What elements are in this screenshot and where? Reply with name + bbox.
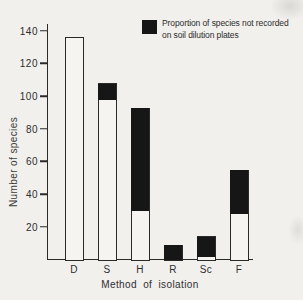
y-tick-label-80: 80 xyxy=(8,123,38,134)
legend-label-line2: on soil dilution plates xyxy=(162,30,303,42)
bar-R-black-segment xyxy=(164,245,182,260)
y-tick-label-20: 20 xyxy=(8,221,38,232)
legend-black-swatch xyxy=(142,20,157,34)
y-tick-mark-100 xyxy=(40,95,47,97)
y-tick-label-140: 140 xyxy=(8,25,38,36)
y-tick-label-40: 40 xyxy=(8,189,38,200)
x-axis-title: Method of isolation xyxy=(101,279,199,290)
y-tick-label-100: 100 xyxy=(8,91,38,102)
legend-label: Proportion of species not recorded on so… xyxy=(162,18,303,41)
bar-H xyxy=(131,108,150,261)
scan-smudge-right xyxy=(288,215,303,245)
legend-label-line1: Proportion of species not recorded xyxy=(162,18,303,30)
y-tick-mark-80 xyxy=(40,128,47,130)
bar-H-black-segment xyxy=(131,108,149,211)
scan-smudge-top-right xyxy=(270,0,303,20)
y-tick-mark-40 xyxy=(40,193,47,195)
bar-F xyxy=(230,170,249,261)
bar-S xyxy=(98,83,117,261)
x-category-label-S: S xyxy=(95,264,119,275)
y-tick-mark-20 xyxy=(40,226,47,228)
x-category-label-D: D xyxy=(62,264,86,275)
y-tick-label-60: 60 xyxy=(8,156,38,167)
bar-D xyxy=(65,37,84,260)
bar-Sc xyxy=(197,236,216,260)
y-tick-mark-140 xyxy=(40,30,47,32)
y-tick-mark-60 xyxy=(40,161,47,163)
bar-R xyxy=(164,245,183,261)
bar-F-black-segment xyxy=(230,170,248,214)
bar-Sc-black-segment xyxy=(197,237,215,257)
bar-chart-figure: Proportion of species not recorded on so… xyxy=(0,0,303,300)
x-category-label-H: H xyxy=(128,264,152,275)
x-category-label-F: F xyxy=(227,264,251,275)
y-axis-line xyxy=(47,24,49,260)
y-tick-mark-120 xyxy=(40,63,47,65)
bar-S-black-segment xyxy=(98,84,116,100)
x-category-label-Sc: Sc xyxy=(194,264,218,275)
x-category-label-R: R xyxy=(161,264,185,275)
y-tick-label-120: 120 xyxy=(8,58,38,69)
